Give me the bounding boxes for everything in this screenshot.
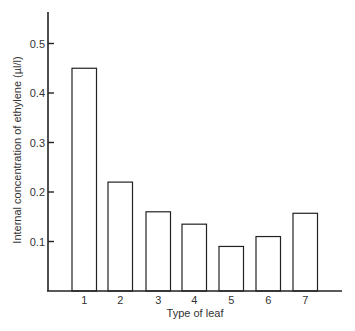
x-tick-label: 7: [302, 294, 308, 306]
y-ticks: 0.10.20.30.40.5: [30, 38, 54, 248]
y-tick-label: 0.3: [30, 137, 45, 149]
y-tick-label: 0.5: [30, 38, 45, 50]
x-tick-label: 5: [228, 294, 234, 306]
x-tick-label: 1: [81, 294, 87, 306]
y-tick-label: 0.4: [30, 87, 45, 99]
bar-2: [108, 182, 133, 291]
bar-4: [182, 224, 207, 291]
y-tick-label: 0.1: [30, 236, 45, 248]
bar-3: [146, 212, 171, 291]
y-axis-title: Internal concentration of ethylene (µl/l…: [11, 56, 23, 243]
y-tick-label: 0.2: [30, 186, 45, 198]
bar-1: [72, 68, 97, 291]
x-tick-label: 4: [191, 294, 197, 306]
bar-7: [293, 213, 318, 291]
bars-group: [72, 68, 318, 291]
bar-6: [256, 237, 281, 291]
bar-5: [219, 246, 244, 291]
x-tick-label: 6: [265, 294, 271, 306]
x-tick-label: 2: [117, 294, 123, 306]
x-tick-labels: 1234567: [81, 294, 308, 306]
bar-chart: 0.10.20.30.40.5 1234567 Type of leaf Int…: [0, 0, 355, 331]
x-axis-title: Type of leaf: [167, 307, 225, 319]
x-tick-label: 3: [155, 294, 161, 306]
